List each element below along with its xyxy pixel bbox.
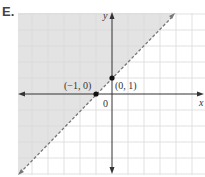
label-point-0-1: (0, 1)	[115, 80, 137, 92]
inequality-graph: (−1, 0) (0, 1) 0 x y	[0, 0, 205, 177]
point-neg1-0	[93, 91, 98, 96]
point-0-1	[109, 75, 114, 80]
x-axis-label: x	[198, 97, 204, 108]
origin-label: 0	[103, 98, 108, 109]
y-axis-label: y	[102, 10, 108, 21]
label-point-neg1-0: (−1, 0)	[64, 80, 91, 92]
